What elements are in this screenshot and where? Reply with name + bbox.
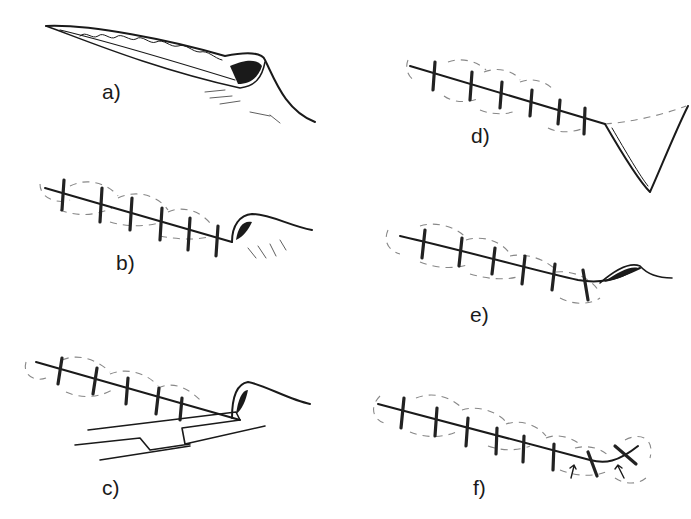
panel-label-e: e) bbox=[470, 303, 489, 327]
panel-e-drawing bbox=[386, 224, 672, 303]
panel-b-drawing bbox=[40, 180, 312, 258]
suture-technique-figure: a) b) c) d) e) f) bbox=[0, 0, 691, 519]
panel-d-drawing bbox=[407, 60, 688, 192]
panel-a-drawing bbox=[46, 26, 315, 123]
panel-label-f: f) bbox=[473, 476, 486, 500]
panel-label-c: c) bbox=[102, 476, 120, 500]
figure-drawing bbox=[0, 0, 691, 519]
panel-label-a: a) bbox=[102, 80, 121, 104]
panel-label-b: b) bbox=[116, 251, 135, 275]
panel-f-drawing bbox=[374, 395, 651, 483]
panel-label-d: d) bbox=[471, 124, 490, 148]
panel-c-drawing bbox=[25, 357, 310, 460]
